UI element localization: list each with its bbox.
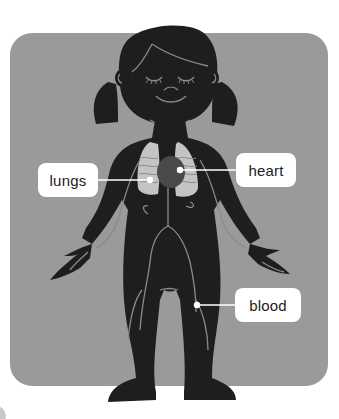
label-lungs-text: lungs (50, 172, 87, 189)
label-lungs: lungs (38, 163, 98, 197)
right-pigtail (212, 82, 238, 126)
body-silhouette (0, 0, 339, 419)
head (119, 26, 217, 124)
right-hand (248, 244, 290, 274)
label-blood: blood (235, 288, 301, 322)
left-pigtail (94, 82, 118, 124)
anatomy-diagram: lungs heart blood (0, 0, 339, 419)
label-blood-text: blood (249, 297, 287, 314)
left-ear (115, 69, 129, 87)
label-heart: heart (236, 153, 296, 187)
right-ear (205, 69, 219, 87)
left-hand (50, 244, 92, 280)
label-heart-text: heart (248, 162, 283, 179)
